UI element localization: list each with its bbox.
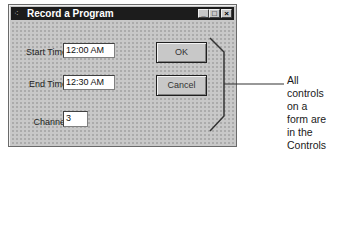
annotation-line: Controls collection	[287, 139, 337, 154]
annotation-callout: All controls on a form are in the Contro…	[287, 74, 337, 154]
annotation-line: All controls on a	[287, 74, 337, 113]
annotation-line: form are in the	[287, 113, 337, 139]
